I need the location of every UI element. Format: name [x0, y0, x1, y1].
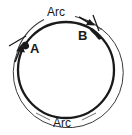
arc-diagram-canvas — [0, 0, 132, 135]
arc-diagram-figure: Arc Arc A B — [0, 0, 132, 135]
tick-mark-b — [93, 15, 99, 31]
point-marker-b — [92, 30, 100, 38]
arc-label-top: Arc — [47, 6, 65, 18]
point-label-b: B — [78, 29, 87, 42]
point-label-a: A — [30, 42, 39, 55]
arc-label-bottom: Arc — [53, 117, 71, 129]
